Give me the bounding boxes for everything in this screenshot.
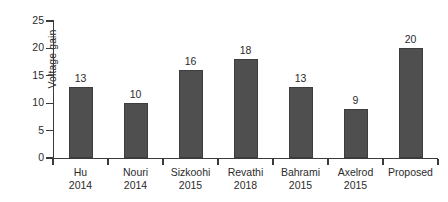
x-axis-category-label-line: 2015	[328, 179, 383, 192]
bar-group[interactable]: 10	[108, 21, 163, 158]
x-axis-category-label-line: Nouri	[108, 166, 163, 179]
bar-value-label: 18	[226, 45, 266, 56]
x-axis-category-label: Proposed	[383, 166, 438, 179]
x-axis-tick-mark	[272, 159, 273, 165]
x-axis-category-label-line: Proposed	[383, 166, 438, 179]
x-axis-category-label: Hu2014	[53, 166, 108, 191]
bar-group[interactable]: 13	[53, 21, 108, 158]
x-axis-category-label-line: 2015	[163, 179, 218, 192]
x-axis-tick-mark	[52, 159, 53, 165]
x-axis-line	[53, 158, 438, 159]
bar-chart-figure: Voltage gain 0510152025 1310161813920 Hu…	[0, 0, 448, 202]
bar[interactable]	[234, 59, 258, 158]
x-axis-category-label: Sizkoohi2015	[163, 166, 218, 191]
x-axis-category-label-line: Bahrami	[273, 166, 328, 179]
y-axis-tick-label-text: 10	[16, 97, 44, 108]
bar-group[interactable]: 9	[328, 21, 383, 158]
x-axis-tick-mark	[437, 159, 438, 165]
y-axis-tick-label-text: 15	[16, 70, 44, 81]
x-axis-category-label: Revathi2018	[218, 166, 273, 191]
y-axis-tick-label: 0	[10, 152, 44, 163]
x-axis-category-label-line: 2015	[273, 179, 328, 192]
bar[interactable]	[289, 87, 313, 158]
x-axis-tick-mark	[382, 159, 383, 165]
x-axis-category-label: Nouri2014	[108, 166, 163, 191]
x-axis-category-label-line: Axelrod	[328, 166, 383, 179]
bar[interactable]	[69, 87, 93, 158]
bar-value-label: 20	[391, 34, 431, 45]
bar-value-label: 16	[171, 56, 211, 67]
x-axis-category-label-line: 2018	[218, 179, 273, 192]
x-axis-category-label-line: 2014	[108, 179, 163, 192]
x-axis-category-label-line: Hu	[53, 166, 108, 179]
x-axis-category-label-line: Sizkoohi	[163, 166, 218, 179]
y-axis-tick-label: 25	[10, 15, 44, 26]
y-axis-tick-label-text: 25	[16, 15, 44, 26]
x-axis-tick-mark	[107, 159, 108, 165]
bar-group[interactable]: 16	[163, 21, 218, 158]
bar[interactable]	[344, 109, 368, 158]
x-axis-category-label-line: 2014	[53, 179, 108, 192]
x-axis-tick-mark	[327, 159, 328, 165]
bar-value-label: 13	[61, 73, 101, 84]
x-axis-tick-mark	[217, 159, 218, 165]
x-axis-category-label: Axelrod2015	[328, 166, 383, 191]
bar-value-label: 13	[281, 73, 321, 84]
bar-value-label: 10	[116, 89, 156, 100]
bar[interactable]	[124, 103, 148, 158]
x-axis-tick-mark	[162, 159, 163, 165]
bar-group[interactable]: 13	[273, 21, 328, 158]
y-axis-tick-label: 20	[10, 42, 44, 53]
y-axis-tick-label-text: 5	[16, 125, 44, 136]
bar-group[interactable]: 18	[218, 21, 273, 158]
bar[interactable]	[179, 70, 203, 158]
plot-area: 1310161813920	[53, 21, 438, 158]
bar-group[interactable]: 20	[383, 21, 438, 158]
bar[interactable]	[399, 48, 423, 158]
y-axis-tick-label: 5	[10, 125, 44, 136]
y-axis-tick-label: 10	[10, 97, 44, 108]
x-axis-category-label: Bahrami2015	[273, 166, 328, 191]
y-axis-tick-label-text: 20	[16, 42, 44, 53]
y-axis-tick-label: 15	[10, 70, 44, 81]
bar-value-label: 9	[336, 95, 376, 106]
x-axis-category-label-line: Revathi	[218, 166, 273, 179]
y-axis-tick-label-text: 0	[16, 152, 44, 163]
